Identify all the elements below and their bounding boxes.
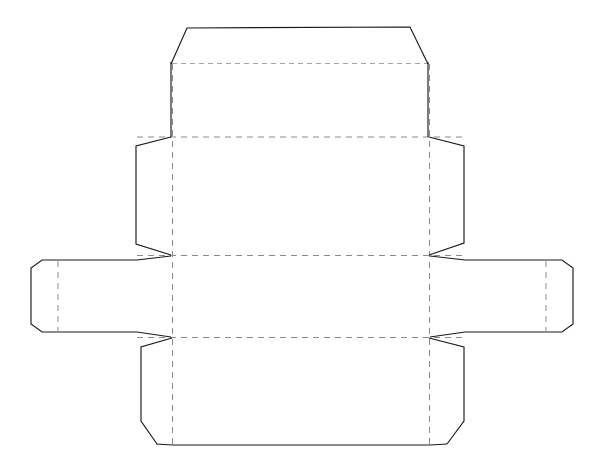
dieline-drawing <box>0 0 605 475</box>
panel-top-panel <box>171 63 428 137</box>
panel-bottom-panel <box>173 338 430 445</box>
panel-left-upper-tab <box>136 137 171 255</box>
panel-right-side-panel <box>465 260 573 332</box>
panel-lower-center-panel <box>172 256 429 337</box>
panel-top-hood-flap <box>171 27 428 63</box>
panel-left-side-panel <box>31 260 137 332</box>
panel-right-upper-tab <box>428 137 464 255</box>
panel-center-panel <box>172 137 429 255</box>
dieline-canvas <box>0 0 605 475</box>
